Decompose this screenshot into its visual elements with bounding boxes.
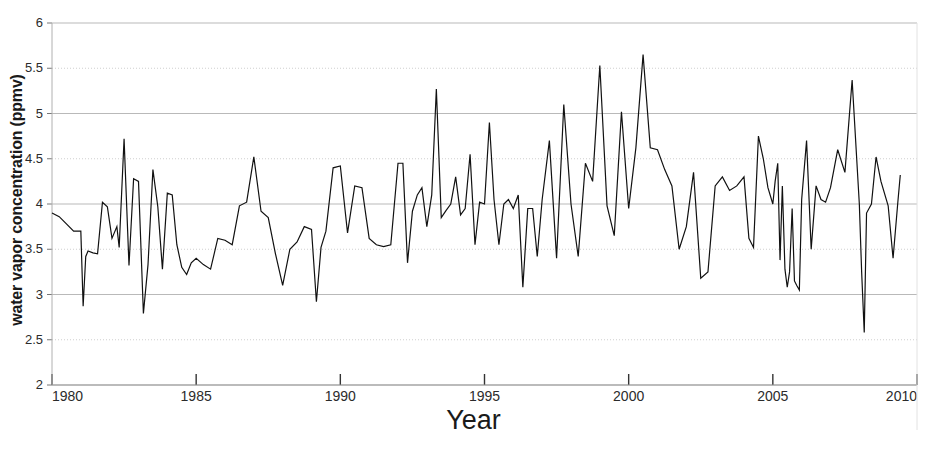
y-tick-label: 5.5 xyxy=(25,60,43,75)
x-tick-label: 1980 xyxy=(52,388,83,404)
y-tick-label: 4.5 xyxy=(25,151,43,166)
line-chart-canvas: 22.533.544.555.56 1980198519901995200020… xyxy=(0,0,947,452)
x-tick-label: 2010 xyxy=(886,388,917,404)
x-tick-label: 2000 xyxy=(613,388,644,404)
axis-frame-group xyxy=(52,23,917,430)
x-axis-label-text: Year xyxy=(0,405,947,436)
y-tick-label: 2 xyxy=(36,377,43,392)
y-tick-label: 3.5 xyxy=(25,241,43,256)
x-tick-label: 2005 xyxy=(757,388,788,404)
chart-figure: 22.533.544.555.56 1980198519901995200020… xyxy=(0,0,947,452)
x-tick-label: 1985 xyxy=(181,388,212,404)
y-tick-label: 2.5 xyxy=(25,332,43,347)
x-axis-ticks-group: 1980198519901995200020052010 xyxy=(52,374,917,404)
x-tick-label: 1995 xyxy=(469,388,500,404)
data-series-line xyxy=(52,55,900,333)
y-tick-label: 5 xyxy=(36,106,43,121)
y-tick-label: 3 xyxy=(36,287,43,302)
y-tick-label: 6 xyxy=(36,15,43,30)
x-tick-label: 1990 xyxy=(325,388,356,404)
y-axis-ticks-group: 22.533.544.555.56 xyxy=(25,15,52,392)
y-tick-label: 4 xyxy=(36,196,43,211)
